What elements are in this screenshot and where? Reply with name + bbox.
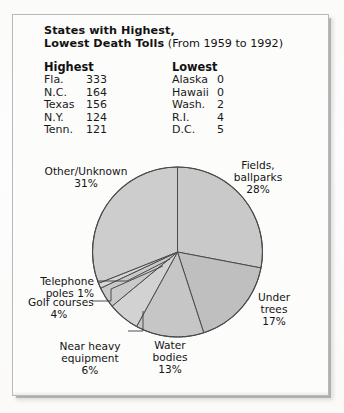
slice-label-text: bodies [153, 351, 188, 363]
slice-label-percent: 4% [28, 308, 90, 320]
slice-label-golf-courses: Golf courses 4% [28, 296, 98, 320]
slice-label-under-trees: Under trees 17% [243, 291, 305, 328]
slice-label-percent: 28% [246, 183, 270, 195]
slice-label-other-unknown: Other/Unknown 31% [34, 165, 138, 189]
slice-label-text: Near heavy [60, 340, 121, 352]
slice-label-percent: 31% [74, 177, 98, 189]
slice-label-text: Under [258, 291, 290, 303]
slice-label-percent: poles 1% [46, 287, 94, 299]
slice-label-percent: 17% [262, 315, 286, 327]
slice-label-water-bodies: Water bodies 13% [139, 339, 201, 376]
slice-label-fields-ballparks: Fields, ballparks 28% [218, 159, 298, 196]
slice-label-text: trees [261, 303, 288, 315]
slice-label-telephone-poles: Telephone poles 1% [24, 275, 94, 299]
slice-label-text: Water [154, 339, 185, 351]
slice-label-percent: 6% [82, 364, 99, 376]
infographic-root: States with Highest, Lowest Death Tolls … [0, 0, 344, 413]
slice-label-percent: 13% [158, 363, 182, 375]
slice-label-text: ballparks [234, 171, 282, 183]
slice-label-near-heavy-equipment: Near heavy equipment 6% [53, 340, 127, 377]
slice-label-text: Telephone [40, 275, 94, 287]
slice-label-text: Fields, [241, 159, 274, 171]
slice-label-text: equipment [61, 352, 118, 364]
slice-label-text: Other/Unknown [45, 165, 128, 177]
